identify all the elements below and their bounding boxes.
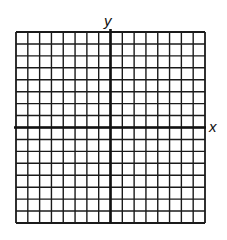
x-axis-label: x [208, 118, 217, 135]
coordinate-grid: y x [0, 0, 227, 240]
y-axis-label: y [103, 12, 113, 29]
